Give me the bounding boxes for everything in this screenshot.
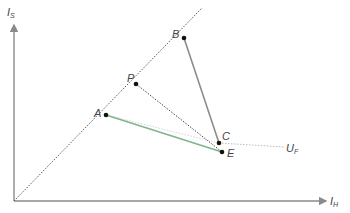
pe-dotted-line (136, 84, 222, 152)
uf-label: UF (286, 142, 299, 155)
point-label-E: E (227, 147, 235, 159)
point-label-A: A (93, 107, 101, 119)
ae-green-segment (106, 115, 222, 152)
point-label-B: B (172, 28, 179, 40)
x-axis-label: IH (330, 195, 339, 208)
point-A (104, 113, 109, 118)
bc-segment (184, 38, 219, 143)
ac-dotted-line (106, 115, 219, 143)
point-label-P: P (127, 72, 135, 84)
diagram-canvas: A P B C E UF IS IH (0, 0, 350, 213)
point-B (182, 36, 187, 41)
point-label-C: C (222, 130, 230, 142)
point-C (217, 141, 222, 146)
y-axis-label: IS (7, 6, 15, 19)
point-P (134, 82, 139, 87)
point-E (220, 150, 225, 155)
